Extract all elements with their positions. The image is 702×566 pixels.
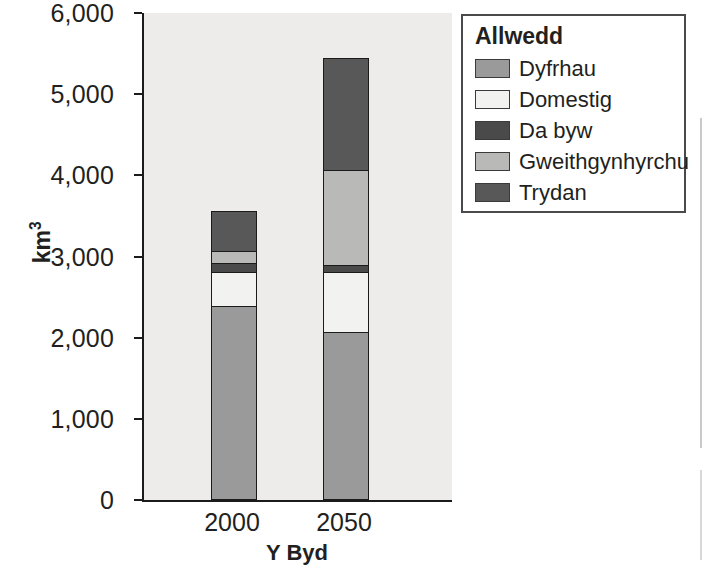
legend-swatch-icon bbox=[475, 90, 510, 109]
bar-segment[interactable] bbox=[211, 272, 257, 306]
bar-segment[interactable] bbox=[323, 265, 369, 272]
legend-title: Allwedd bbox=[475, 23, 684, 49]
bar-2000[interactable] bbox=[211, 211, 257, 500]
x-axis-tick-label-2000: 2000 bbox=[172, 508, 292, 537]
legend-rows: DyfrhauDomestigDa bywGweithgynhyrchuTryd… bbox=[475, 53, 684, 208]
bar-segment[interactable] bbox=[323, 272, 369, 332]
legend-item-1[interactable]: Domestig bbox=[475, 84, 684, 115]
y-axis-tick-label: 6,000 bbox=[50, 1, 114, 26]
y-axis-title: km3 bbox=[27, 221, 56, 263]
y-axis-tick-mark bbox=[134, 93, 142, 95]
legend-item-label: Trydan bbox=[519, 182, 587, 204]
y-axis-tick-mark bbox=[134, 256, 142, 258]
bar-segment[interactable] bbox=[211, 306, 257, 500]
y-axis-title-text: km3 bbox=[28, 221, 54, 263]
y-axis-tick-labels: 01,0002,0003,0004,0005,0006,000 bbox=[0, 0, 130, 520]
y-axis-tick-mark bbox=[134, 174, 142, 176]
plot-area bbox=[142, 13, 452, 502]
bar-2050[interactable] bbox=[323, 58, 369, 500]
y-axis-tick-mark bbox=[134, 337, 142, 339]
y-axis-tick-label: 1,000 bbox=[50, 406, 114, 431]
bar-segment[interactable] bbox=[211, 211, 257, 251]
y-axis-tick-label: 2,000 bbox=[50, 325, 114, 350]
bar-segment[interactable] bbox=[323, 58, 369, 170]
legend-swatch-icon bbox=[475, 183, 510, 202]
legend-item-2[interactable]: Da byw bbox=[475, 115, 684, 146]
legend-item-label: Da byw bbox=[519, 120, 592, 142]
y-axis-tick-mark bbox=[134, 418, 142, 420]
legend: Allwedd DyfrhauDomestigDa bywGweithgynhy… bbox=[461, 14, 686, 213]
bar-segment[interactable] bbox=[323, 170, 369, 265]
bar-segment[interactable] bbox=[211, 263, 257, 272]
y-axis-tick-mark bbox=[134, 12, 142, 14]
y-axis-tick-label: 3,000 bbox=[50, 244, 114, 269]
y-axis-tick-label: 0 bbox=[100, 488, 114, 513]
bar-segment[interactable] bbox=[211, 251, 257, 263]
legend-item-0[interactable]: Dyfrhau bbox=[475, 53, 684, 84]
legend-swatch-icon bbox=[475, 59, 510, 78]
bar-segment[interactable] bbox=[323, 332, 369, 500]
legend-swatch-icon bbox=[475, 152, 510, 171]
legend-item-label: Dyfrhau bbox=[519, 58, 596, 80]
y-axis-tick-label: 5,000 bbox=[50, 82, 114, 107]
x-axis-tick-label-2050: 2050 bbox=[284, 508, 404, 537]
legend-item-4[interactable]: Trydan bbox=[475, 177, 684, 208]
y-axis-tick-label: 4,000 bbox=[50, 163, 114, 188]
legend-item-label: Domestig bbox=[519, 89, 612, 111]
legend-item-3[interactable]: Gweithgynhyrchu bbox=[475, 146, 684, 177]
y-axis-tick-mark bbox=[134, 499, 142, 501]
legend-item-label: Gweithgynhyrchu bbox=[519, 151, 689, 173]
x-axis-title: Y Byd bbox=[142, 540, 452, 566]
legend-swatch-icon bbox=[475, 121, 510, 140]
